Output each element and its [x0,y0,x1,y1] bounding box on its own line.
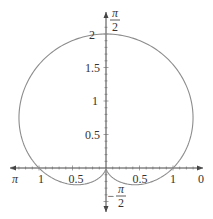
y-tick-0.5: 0.5 [85,128,100,142]
x-tick-right-0.5: 0.5 [133,172,148,186]
svg-text:π: π [118,182,125,196]
y-axis-arrow-up [104,12,109,18]
x-tick-left-0.5: 0.5 [69,172,84,186]
x-axis-arrow-left [10,166,16,171]
y-tick-2: 2 [89,28,95,42]
y-axis-arrow-down [104,206,109,212]
angle-label-pi: π [12,172,19,186]
y-tick-1: 1 [92,94,98,108]
svg-text:−: − [108,189,115,203]
svg-text:2: 2 [118,196,124,210]
polar-chart: 2 1.5 1 0.5 1 0.5 0.5 1 π 0 π 2 − π 2 [0,0,213,219]
angle-label-pi-over-2: π 2 [110,6,120,34]
angle-label-0: 0 [198,172,204,186]
x-tick-left-1: 1 [38,172,44,186]
y-tick-1.5: 1.5 [85,61,100,75]
svg-text:2: 2 [112,20,118,34]
angle-label-neg-pi-over-2: − π 2 [108,182,126,210]
svg-text:π: π [112,6,119,20]
x-tick-right-1: 1 [170,172,176,186]
